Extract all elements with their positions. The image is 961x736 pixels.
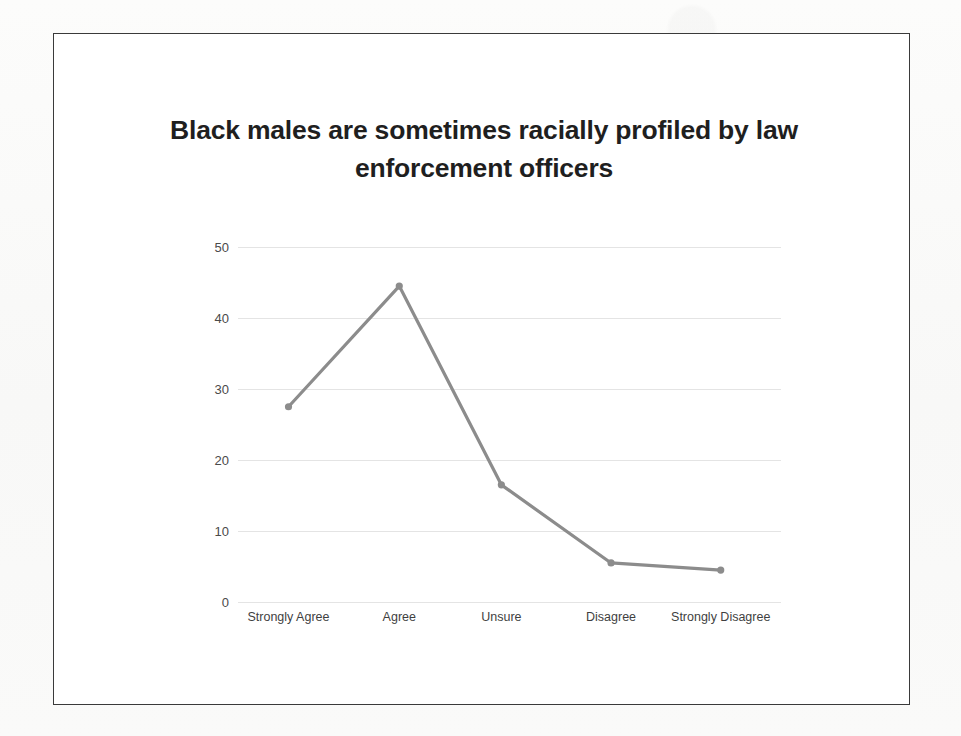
data-point-strongly-disagree bbox=[717, 566, 724, 573]
y-axis-tick-50: 50 bbox=[215, 240, 229, 255]
y-axis-tick-40: 40 bbox=[215, 311, 229, 326]
data-point-strongly-agree bbox=[285, 403, 292, 410]
gridline-0 bbox=[238, 602, 781, 603]
y-axis-tick-20: 20 bbox=[215, 453, 229, 468]
chart-title-line-1: Black males are sometimes racially profi… bbox=[144, 112, 824, 150]
x-axis-tick-strongly-disagree: Strongly Disagree bbox=[671, 610, 770, 624]
x-axis-tick-disagree: Disagree bbox=[586, 610, 636, 624]
y-axis-tick-30: 30 bbox=[215, 382, 229, 397]
plot-area: 50 40 30 20 10 0 Strongly Agree Agree Un… bbox=[238, 247, 781, 602]
data-point-unsure bbox=[498, 481, 505, 488]
x-axis-tick-strongly-agree: Strongly Agree bbox=[247, 610, 329, 624]
slide-frame: Black males are sometimes racially profi… bbox=[53, 33, 910, 705]
data-point-agree bbox=[396, 282, 403, 289]
data-point-disagree bbox=[607, 559, 614, 566]
chart-title: Black males are sometimes racially profi… bbox=[144, 112, 824, 187]
x-axis-tick-unsure: Unsure bbox=[481, 610, 521, 624]
x-axis-tick-agree: Agree bbox=[383, 610, 416, 624]
y-axis-tick-0: 0 bbox=[222, 595, 229, 610]
data-series-line bbox=[238, 247, 781, 602]
y-axis-tick-10: 10 bbox=[215, 524, 229, 539]
chart-title-line-2: enforcement officers bbox=[144, 150, 824, 188]
data-point-markers bbox=[285, 282, 724, 573]
